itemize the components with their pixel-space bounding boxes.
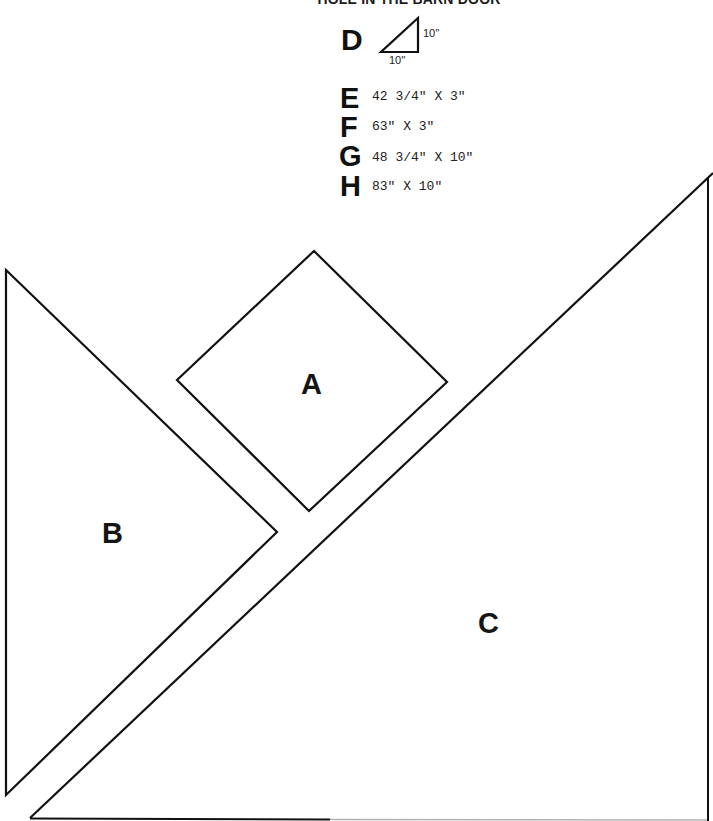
piece-a-label: A — [301, 370, 322, 399]
piece-c-bottom-edge-faded — [330, 820, 708, 821]
piece-c-bottom-edge — [30, 819, 330, 820]
quilt-pattern-sheet: HOLE IN THE BARN DOOR D 10'' 10'' E 42 3… — [0, 0, 713, 821]
piece-c-hypotenuse — [30, 173, 713, 818]
piece-b-outline — [6, 270, 277, 795]
piece-b-label: B — [102, 519, 123, 548]
piece-c-label: C — [478, 609, 499, 638]
pattern-pieces — [0, 0, 713, 821]
